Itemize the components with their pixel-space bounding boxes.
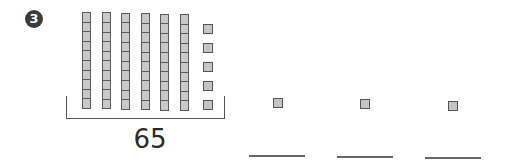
answer-blank-line[interactable]: [249, 155, 305, 157]
problem-number-badge: 3: [25, 10, 43, 28]
ones-cube: [203, 24, 213, 34]
grouping-bracket: [66, 96, 225, 119]
answer-blank-line[interactable]: [337, 156, 393, 158]
answer-cube: [448, 101, 458, 111]
total-value-label: 65: [110, 124, 190, 154]
ones-cube: [203, 43, 213, 53]
answer-blank-line[interactable]: [425, 157, 481, 159]
ones-cube: [203, 62, 213, 72]
answer-cube: [273, 98, 283, 108]
answer-cube: [360, 99, 370, 109]
ones-cube: [203, 81, 213, 91]
